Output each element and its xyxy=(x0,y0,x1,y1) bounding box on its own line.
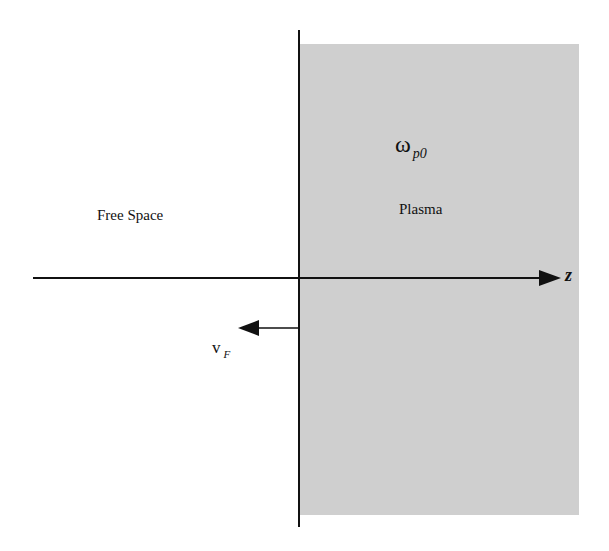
velocity-arrowhead-icon xyxy=(238,320,259,336)
plasma-frequency-label: ωp0 xyxy=(395,131,427,162)
free-space-label: Free Space xyxy=(97,207,163,224)
plasma-label: Plasma xyxy=(399,201,442,218)
arrows xyxy=(0,0,609,551)
z-axis-arrowhead-icon xyxy=(539,270,561,286)
z-axis-label: z xyxy=(565,265,572,286)
velocity-label: vF xyxy=(212,338,230,360)
